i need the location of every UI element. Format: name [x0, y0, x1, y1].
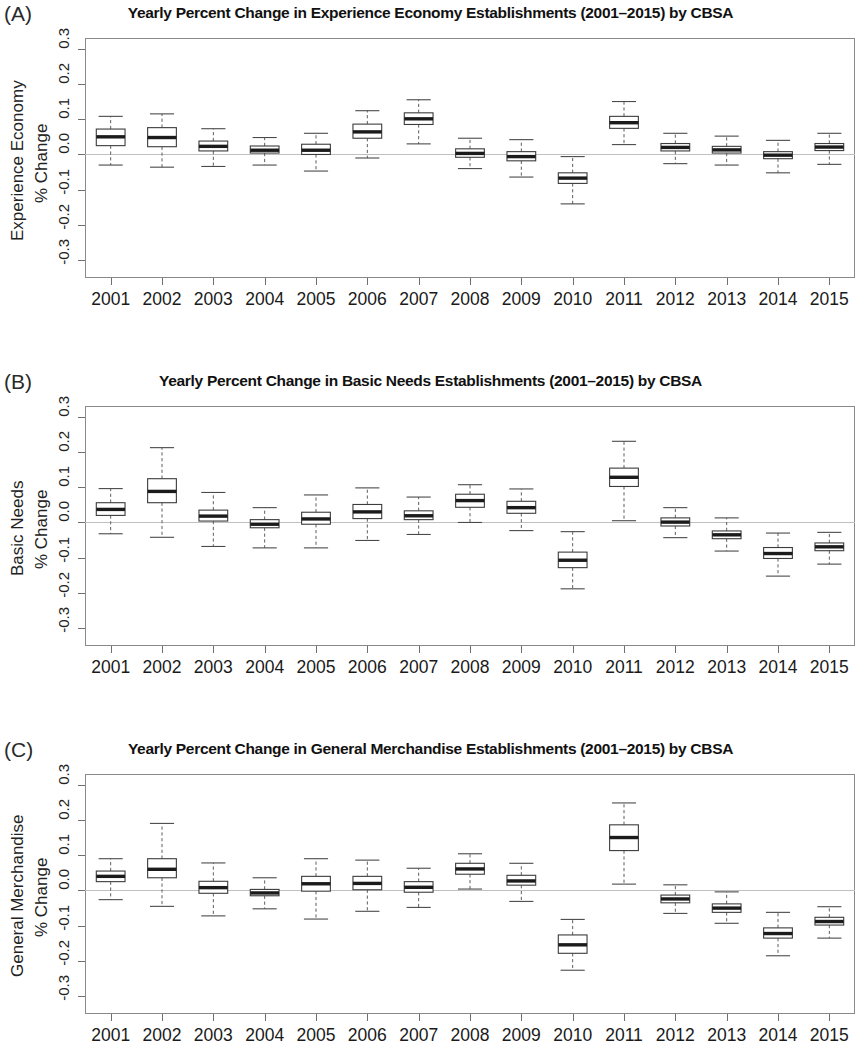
boxplot-box — [764, 533, 793, 576]
boxplot-box — [815, 532, 844, 564]
boxplot-box — [456, 854, 485, 889]
boxplot-box — [712, 892, 741, 923]
boxplot-box — [712, 136, 741, 165]
panel-b: (B) Yearly Percent Change in Basic Needs… — [0, 368, 861, 723]
boxplot-box — [96, 859, 125, 900]
boxplot-box — [250, 508, 279, 548]
boxplot-box — [199, 863, 228, 916]
boxplot-box — [507, 489, 536, 531]
boxplot-box — [815, 907, 844, 938]
boxplot-box — [353, 111, 382, 158]
boxplot-box — [507, 140, 536, 177]
boxplot-box — [353, 860, 382, 911]
boxplot-box — [148, 448, 177, 538]
boxplot-box — [302, 133, 331, 171]
boxplot-box — [250, 138, 279, 166]
boxplot-box — [353, 488, 382, 541]
boxplot-series — [0, 368, 861, 698]
boxplot-box — [456, 138, 485, 168]
figure-boxplot-panels: (A) Yearly Percent Change in Experience … — [0, 0, 861, 1059]
boxplot-box — [610, 441, 639, 520]
boxplot-box — [404, 497, 433, 534]
boxplot-box — [148, 114, 177, 167]
boxplot-box — [661, 508, 690, 538]
boxplot-box — [610, 803, 639, 884]
boxplot-box — [404, 868, 433, 907]
boxplot-box — [558, 532, 587, 589]
boxplot-series — [0, 0, 861, 330]
boxplot-box — [404, 100, 433, 144]
boxplot-box — [661, 885, 690, 914]
boxplot-box — [558, 157, 587, 204]
boxplot-box — [558, 919, 587, 970]
boxplot-box — [302, 859, 331, 919]
boxplot-box — [764, 912, 793, 955]
panel-a: (A) Yearly Percent Change in Experience … — [0, 0, 861, 355]
panel-c: (C) Yearly Percent Change in General Mer… — [0, 736, 861, 1059]
boxplot-box — [456, 485, 485, 523]
boxplot-box — [302, 495, 331, 548]
boxplot-box — [148, 823, 177, 906]
boxplot-box — [712, 518, 741, 551]
boxplot-box — [610, 102, 639, 145]
boxplot-box — [661, 133, 690, 163]
boxplot-box — [250, 878, 279, 909]
boxplot-box — [96, 489, 125, 534]
boxplot-box — [764, 140, 793, 172]
boxplot-box — [815, 133, 844, 164]
boxplot-box — [199, 129, 228, 167]
boxplot-box — [507, 863, 536, 901]
boxplot-box — [199, 492, 228, 546]
boxplot-series — [0, 736, 861, 1059]
boxplot-box — [96, 116, 125, 165]
